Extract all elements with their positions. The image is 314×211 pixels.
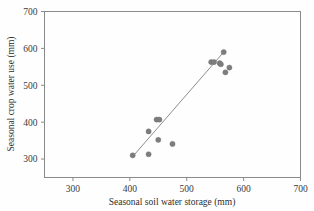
data-point bbox=[211, 59, 216, 64]
y-tick-label-700: 700 bbox=[23, 7, 38, 17]
x-axis-title: Seasonal soil water storage (mm) bbox=[109, 197, 236, 208]
data-point bbox=[218, 62, 223, 67]
data-point bbox=[146, 152, 151, 157]
data-point bbox=[130, 153, 135, 158]
data-point bbox=[170, 141, 175, 146]
y-axis-title: Seasonal crop water use (mm) bbox=[6, 36, 17, 151]
x-tick-label-600: 600 bbox=[236, 184, 251, 194]
data-point bbox=[157, 117, 162, 122]
data-point bbox=[221, 49, 226, 54]
y-tick-label-400: 400 bbox=[23, 118, 38, 128]
y-tick-label-600: 600 bbox=[23, 44, 38, 54]
data-point bbox=[223, 70, 228, 75]
x-tick-label-400: 400 bbox=[123, 184, 138, 194]
data-point bbox=[227, 65, 232, 70]
chart-background bbox=[0, 0, 314, 211]
chart-canvas: 300400500600700 300400500600700 Seasonal… bbox=[0, 0, 314, 211]
scatter-plot-figure: 300400500600700 300400500600700 Seasonal… bbox=[0, 0, 314, 211]
y-tick-label-300: 300 bbox=[23, 154, 38, 164]
y-tick-label-500: 500 bbox=[23, 81, 38, 91]
data-point bbox=[146, 129, 151, 134]
x-tick-label-500: 500 bbox=[180, 184, 195, 194]
x-tick-label-700: 700 bbox=[293, 184, 308, 194]
data-point bbox=[156, 137, 161, 142]
x-tick-label-300: 300 bbox=[66, 184, 81, 194]
